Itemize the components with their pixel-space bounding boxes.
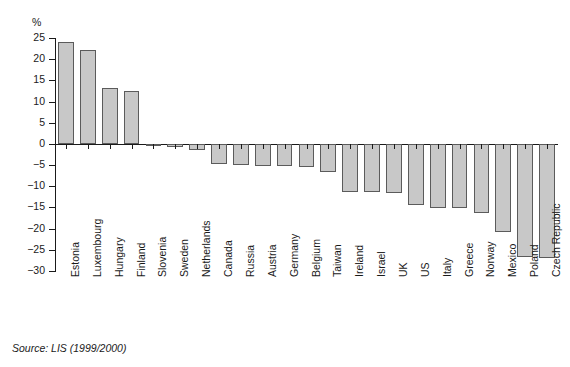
plot-area: 2520151050−5−10−15−20−25−30 xyxy=(55,38,558,271)
y-axis-tick-label: −25 xyxy=(27,243,45,256)
bar xyxy=(430,144,446,208)
category-label: Mexico xyxy=(507,244,518,277)
bar xyxy=(474,144,490,213)
bar xyxy=(408,144,424,205)
x-axis-tick xyxy=(175,144,176,149)
category-label: Sweden xyxy=(179,239,190,277)
y-axis-tick: 5 xyxy=(49,123,56,124)
y-axis-tick: −15 xyxy=(49,207,56,208)
bar xyxy=(80,50,96,144)
category-label: Czech Republic xyxy=(551,203,562,277)
x-axis-tick xyxy=(394,144,395,149)
bar xyxy=(452,144,468,208)
y-axis-tick-label: 25 xyxy=(33,31,45,44)
category-label: Italy xyxy=(442,258,453,277)
bar xyxy=(364,144,380,192)
category-label: UK xyxy=(398,262,409,277)
x-axis-tick xyxy=(197,144,198,149)
category-label: US xyxy=(420,262,431,277)
y-axis-tick-label: −15 xyxy=(27,200,45,213)
category-label: Finland xyxy=(136,243,147,277)
x-axis-tick xyxy=(460,144,461,149)
figure: % 2520151050−5−10−15−20−25−30 EstoniaLux… xyxy=(0,0,570,367)
x-axis-tick xyxy=(350,144,351,149)
category-label: Luxembourg xyxy=(92,219,103,277)
y-axis-tick-label: 15 xyxy=(33,73,45,86)
x-axis-tick xyxy=(263,144,264,149)
y-axis-tick-label: 10 xyxy=(33,95,45,108)
bar xyxy=(342,144,358,192)
y-axis-unit-label: % xyxy=(32,16,41,28)
y-axis-line xyxy=(55,38,56,271)
x-axis-tick xyxy=(241,144,242,149)
category-label: Slovenia xyxy=(157,237,168,277)
category-label: Poland xyxy=(529,244,540,277)
y-axis-tick-label: 20 xyxy=(33,52,45,65)
category-label: Taiwan xyxy=(332,244,343,277)
x-axis-tick xyxy=(132,144,133,149)
y-axis-tick-label: −10 xyxy=(27,179,45,192)
bar xyxy=(58,42,74,144)
category-label: Israel xyxy=(376,251,387,277)
x-axis-tick xyxy=(503,144,504,149)
y-axis-tick-label: 5 xyxy=(39,116,45,129)
x-axis-tick xyxy=(481,144,482,149)
bar xyxy=(386,144,402,193)
y-axis-tick: −30 xyxy=(49,271,56,272)
y-axis-tick-label: −30 xyxy=(27,264,45,277)
x-axis-tick xyxy=(416,144,417,149)
category-label: Germany xyxy=(289,234,300,277)
y-axis-tick: 10 xyxy=(49,102,56,103)
y-axis-tick-label: −5 xyxy=(33,158,45,171)
y-axis-tick: −10 xyxy=(49,186,56,187)
category-label: Hungary xyxy=(114,237,125,277)
x-axis-tick xyxy=(328,144,329,149)
y-axis-tick: −20 xyxy=(49,229,56,230)
y-axis-tick: −5 xyxy=(49,165,56,166)
y-axis-tick-label: 0 xyxy=(39,137,45,150)
x-axis-tick xyxy=(88,144,89,149)
y-axis-tick: 0 xyxy=(49,144,56,145)
bar xyxy=(517,144,533,257)
category-label: Canada xyxy=(223,240,234,277)
x-axis-tick xyxy=(547,144,548,149)
x-axis-tick xyxy=(307,144,308,149)
category-label: Norway xyxy=(485,241,496,277)
y-axis-tick-label: −20 xyxy=(27,222,45,235)
source-note: Source: LIS (1999/2000) xyxy=(12,342,126,354)
category-label: Russia xyxy=(245,245,256,277)
bar xyxy=(495,144,511,232)
y-axis-tick: 15 xyxy=(49,80,56,81)
bar xyxy=(124,91,140,144)
category-label: Ireland xyxy=(354,245,365,277)
category-label: Estonia xyxy=(70,242,81,277)
x-axis-tick xyxy=(372,144,373,149)
category-label: Netherlands xyxy=(201,220,212,277)
category-label: Belgium xyxy=(311,239,322,277)
y-axis-tick: −25 xyxy=(49,250,56,251)
x-axis-tick xyxy=(153,144,154,149)
x-axis-tick xyxy=(110,144,111,149)
x-axis-tick xyxy=(285,144,286,149)
y-axis-tick: 20 xyxy=(49,59,56,60)
x-axis-tick xyxy=(219,144,220,149)
category-label: Greece xyxy=(464,243,475,277)
x-axis-tick xyxy=(525,144,526,149)
y-axis-tick: 25 xyxy=(49,38,56,39)
x-axis-tick xyxy=(66,144,67,149)
x-axis-tick xyxy=(438,144,439,149)
category-label: Austria xyxy=(267,244,278,277)
bar xyxy=(102,88,118,144)
